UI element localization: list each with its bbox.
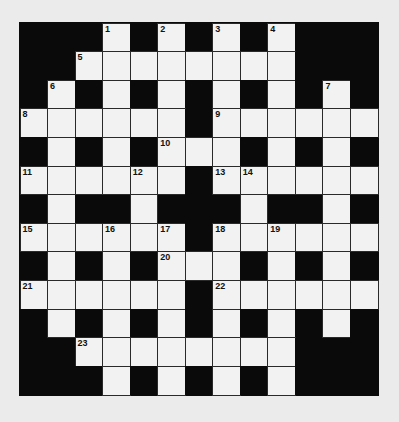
answer-cell[interactable] xyxy=(267,337,296,367)
answer-cell[interactable] xyxy=(47,194,76,224)
answer-cell[interactable] xyxy=(102,51,131,81)
answer-cell[interactable] xyxy=(322,108,351,138)
answer-cell[interactable] xyxy=(295,108,324,138)
answer-cell[interactable] xyxy=(47,166,76,196)
answer-cell[interactable] xyxy=(322,251,351,281)
answer-cell[interactable]: 11 xyxy=(20,166,49,196)
answer-cell[interactable] xyxy=(75,166,104,196)
answer-cell[interactable] xyxy=(157,166,186,196)
answer-cell[interactable] xyxy=(47,137,76,167)
answer-cell[interactable]: 7 xyxy=(322,80,351,110)
answer-cell[interactable]: 6 xyxy=(47,80,76,110)
answer-cell[interactable] xyxy=(102,166,131,196)
answer-cell[interactable] xyxy=(240,51,269,81)
answer-cell[interactable] xyxy=(240,194,269,224)
answer-cell[interactable] xyxy=(322,280,351,310)
answer-cell[interactable] xyxy=(75,223,104,253)
answer-cell[interactable] xyxy=(75,108,104,138)
answer-cell[interactable] xyxy=(185,337,214,367)
answer-cell[interactable] xyxy=(322,137,351,167)
answer-cell[interactable] xyxy=(185,251,214,281)
answer-cell[interactable] xyxy=(295,223,324,253)
answer-cell[interactable]: 10 xyxy=(157,137,186,167)
answer-cell[interactable] xyxy=(157,80,186,110)
answer-cell[interactable] xyxy=(212,309,241,339)
answer-cell[interactable]: 4 xyxy=(267,23,296,53)
answer-cell[interactable]: 15 xyxy=(20,223,49,253)
answer-cell[interactable] xyxy=(102,366,131,396)
answer-cell[interactable] xyxy=(130,223,159,253)
answer-cell[interactable] xyxy=(185,51,214,81)
answer-cell[interactable] xyxy=(212,366,241,396)
answer-cell[interactable]: 16 xyxy=(102,223,131,253)
answer-cell[interactable]: 21 xyxy=(20,280,49,310)
answer-cell[interactable]: 9 xyxy=(212,108,241,138)
answer-cell[interactable] xyxy=(157,280,186,310)
answer-cell[interactable] xyxy=(350,166,379,196)
answer-cell[interactable] xyxy=(212,137,241,167)
answer-cell[interactable]: 19 xyxy=(267,223,296,253)
answer-cell[interactable]: 8 xyxy=(20,108,49,138)
answer-cell[interactable] xyxy=(102,337,131,367)
answer-cell[interactable] xyxy=(212,80,241,110)
answer-cell[interactable] xyxy=(130,337,159,367)
answer-cell[interactable] xyxy=(130,194,159,224)
answer-cell[interactable] xyxy=(130,280,159,310)
answer-cell[interactable] xyxy=(267,309,296,339)
answer-cell[interactable] xyxy=(267,366,296,396)
answer-cell[interactable] xyxy=(267,108,296,138)
answer-cell[interactable] xyxy=(185,137,214,167)
answer-cell[interactable] xyxy=(240,280,269,310)
answer-cell[interactable] xyxy=(267,251,296,281)
answer-cell[interactable] xyxy=(295,166,324,196)
answer-cell[interactable] xyxy=(240,108,269,138)
answer-cell[interactable] xyxy=(350,108,379,138)
answer-cell[interactable] xyxy=(322,223,351,253)
answer-cell[interactable] xyxy=(322,309,351,339)
answer-cell[interactable] xyxy=(157,51,186,81)
answer-cell[interactable] xyxy=(47,251,76,281)
answer-cell[interactable] xyxy=(350,223,379,253)
answer-cell[interactable] xyxy=(322,166,351,196)
answer-cell[interactable] xyxy=(240,337,269,367)
answer-cell[interactable] xyxy=(47,309,76,339)
answer-cell[interactable] xyxy=(102,80,131,110)
answer-cell[interactable] xyxy=(47,223,76,253)
answer-cell[interactable]: 20 xyxy=(157,251,186,281)
answer-cell[interactable]: 13 xyxy=(212,166,241,196)
answer-cell[interactable] xyxy=(267,51,296,81)
answer-cell[interactable] xyxy=(295,280,324,310)
answer-cell[interactable] xyxy=(240,223,269,253)
answer-cell[interactable] xyxy=(130,108,159,138)
answer-cell[interactable] xyxy=(212,251,241,281)
answer-cell[interactable] xyxy=(267,280,296,310)
answer-cell[interactable]: 18 xyxy=(212,223,241,253)
answer-cell[interactable] xyxy=(102,137,131,167)
answer-cell[interactable]: 23 xyxy=(75,337,104,367)
answer-cell[interactable] xyxy=(130,51,159,81)
answer-cell[interactable] xyxy=(157,309,186,339)
answer-cell[interactable] xyxy=(267,137,296,167)
answer-cell[interactable] xyxy=(350,280,379,310)
answer-cell[interactable] xyxy=(47,280,76,310)
answer-cell[interactable] xyxy=(157,337,186,367)
answer-cell[interactable] xyxy=(322,194,351,224)
answer-cell[interactable]: 12 xyxy=(130,166,159,196)
answer-cell[interactable] xyxy=(267,166,296,196)
answer-cell[interactable]: 2 xyxy=(157,23,186,53)
answer-cell[interactable]: 5 xyxy=(75,51,104,81)
answer-cell[interactable] xyxy=(212,337,241,367)
answer-cell[interactable]: 22 xyxy=(212,280,241,310)
answer-cell[interactable] xyxy=(212,51,241,81)
answer-cell[interactable] xyxy=(267,80,296,110)
answer-cell[interactable] xyxy=(102,280,131,310)
answer-cell[interactable]: 3 xyxy=(212,23,241,53)
answer-cell[interactable]: 14 xyxy=(240,166,269,196)
answer-cell[interactable] xyxy=(102,251,131,281)
answer-cell[interactable] xyxy=(75,280,104,310)
answer-cell[interactable] xyxy=(102,108,131,138)
answer-cell[interactable] xyxy=(157,108,186,138)
answer-cell[interactable]: 17 xyxy=(157,223,186,253)
answer-cell[interactable] xyxy=(157,366,186,396)
answer-cell[interactable] xyxy=(47,108,76,138)
